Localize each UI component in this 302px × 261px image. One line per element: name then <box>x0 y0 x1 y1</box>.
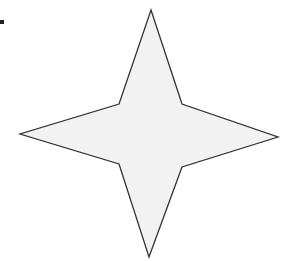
four-pointed-star <box>20 10 278 257</box>
star-diagram <box>0 0 302 261</box>
